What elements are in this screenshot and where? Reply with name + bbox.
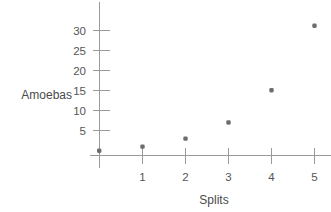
y-tick-label: 5 xyxy=(80,125,86,137)
y-tick-labels: 30 25 20 15 10 5 xyxy=(73,25,86,137)
data-series xyxy=(97,24,317,153)
x-axis-label: Splits xyxy=(199,193,228,207)
axes-group xyxy=(90,2,331,168)
data-point xyxy=(312,24,316,28)
chart-container: 30 25 20 15 10 5 1 2 3 4 5 Amoebas Split… xyxy=(0,0,331,212)
x-tick-label: 3 xyxy=(225,171,231,183)
x-tick-label: 2 xyxy=(182,171,188,183)
y-axis-label: Amoebas xyxy=(21,88,72,102)
data-point xyxy=(269,88,273,92)
x-tick-label: 4 xyxy=(268,171,275,183)
data-point xyxy=(140,144,144,148)
x-tick-label: 1 xyxy=(139,171,145,183)
y-tick-label: 25 xyxy=(73,45,86,57)
y-tick-label: 10 xyxy=(73,105,86,117)
x-tick-labels: 1 2 3 4 5 xyxy=(139,171,317,183)
y-tick-label: 15 xyxy=(73,85,86,97)
data-point xyxy=(183,136,187,140)
y-tick-group xyxy=(93,31,110,131)
y-tick-label: 20 xyxy=(73,65,86,77)
data-point xyxy=(97,149,101,153)
data-point xyxy=(226,120,230,124)
x-tick-label: 5 xyxy=(311,171,317,183)
y-tick-label: 30 xyxy=(73,25,86,37)
scatter-plot: 30 25 20 15 10 5 1 2 3 4 5 Amoebas Split… xyxy=(0,0,331,212)
